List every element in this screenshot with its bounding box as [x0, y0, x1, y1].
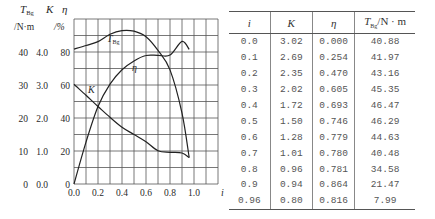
- y-tick-label: 0: [23, 180, 28, 190]
- table-cell: 0.1: [229, 50, 270, 66]
- table-row: 0.61.280.77944.63: [229, 129, 415, 145]
- table-cell: 40.48: [355, 145, 415, 161]
- y-axis-ticks: 00.00101.020202.040303.060404.080: [19, 48, 71, 190]
- table-cell: 0.4: [229, 98, 270, 114]
- x-tick-label: 1.0: [188, 188, 200, 198]
- col-header-i: i: [229, 12, 270, 34]
- y-tick-label: 40: [61, 114, 71, 124]
- table-cell: 0.5: [229, 113, 270, 129]
- table-cell: 0.9: [229, 177, 270, 193]
- table-cell: 1.50: [270, 113, 312, 129]
- y-tick-label: 10: [19, 147, 29, 157]
- y-tick-label: 30: [19, 81, 29, 91]
- table-cell: 0.605: [313, 82, 355, 98]
- table-cell: 34.58: [355, 161, 415, 177]
- col-header-t: TBg/N · m: [355, 12, 415, 34]
- x-axis-ticks: 0.00.20.40.60.81.0: [68, 188, 200, 198]
- col-header-k: K: [270, 12, 312, 34]
- x-tick-label: 0.4: [116, 188, 128, 198]
- axis-header-eta: η: [62, 3, 67, 15]
- y-tick-label: 4.0: [36, 48, 48, 58]
- table-cell: 1.72: [270, 98, 312, 114]
- table-cell: 1.01: [270, 145, 312, 161]
- table-cell: 0.6: [229, 129, 270, 145]
- table-row: 0.12.690.25441.97: [229, 50, 415, 66]
- table-row: 0.71.010.78040.48: [229, 145, 415, 161]
- table-cell: 3.02: [270, 34, 312, 50]
- table-cell: 45.35: [355, 82, 415, 98]
- y-tick-label: 80: [61, 48, 71, 58]
- y-tick-label: 0.0: [36, 180, 48, 190]
- table-cell: 0.864: [313, 177, 355, 193]
- y-tick-label: 60: [61, 81, 71, 91]
- table-cell: 40.88: [355, 34, 415, 50]
- axis-unit-eta: /%: [53, 22, 65, 32]
- table-cell: 44.63: [355, 129, 415, 145]
- axis-unit-t: /N·m: [14, 22, 35, 32]
- table-row: 0.32.020.60545.35: [229, 82, 415, 98]
- table-cell: 0.816: [313, 193, 355, 209]
- y-tick-label: 20: [19, 114, 29, 124]
- table-cell: 0.0: [229, 34, 270, 50]
- table-cell: 0.3: [229, 82, 270, 98]
- y-tick-label: 1.0: [36, 147, 48, 157]
- y-tick-label: 40: [19, 48, 29, 58]
- table-cell: 0.746: [313, 113, 355, 129]
- table-cell: 0.470: [313, 66, 355, 82]
- table-row: 0.960.800.8167.99: [229, 193, 415, 209]
- table-cell: 2.35: [270, 66, 312, 82]
- table-cell: 43.16: [355, 66, 415, 82]
- y-tick-label: 3.0: [36, 81, 48, 91]
- table-cell: 1.28: [270, 129, 312, 145]
- table-header-row: i K η TBg/N · m: [229, 12, 415, 34]
- table-cell: 0.781: [313, 161, 355, 177]
- y-tick-label: 2.0: [36, 114, 48, 124]
- table-row: 0.41.720.69346.47: [229, 98, 415, 114]
- table-cell: 0.96: [270, 161, 312, 177]
- table-cell: 0.780: [313, 145, 355, 161]
- table-row: 0.90.940.86421.47: [229, 177, 415, 193]
- table-row: 0.03.020.00040.88: [229, 34, 415, 50]
- x-axis-label: i: [221, 187, 224, 198]
- col-header-eta: η: [313, 12, 355, 34]
- table-cell: 0.96: [229, 193, 270, 209]
- axis-header-k: K: [45, 3, 54, 15]
- x-tick-label: 0.6: [140, 188, 152, 198]
- axis-header-t: TBg: [20, 3, 34, 16]
- x-tick-label: 0.8: [164, 188, 176, 198]
- table-cell: 2.69: [270, 50, 312, 66]
- curve-label-eta: η: [132, 62, 137, 73]
- k-curve: [74, 84, 189, 157]
- table-cell: 0.7: [229, 145, 270, 161]
- x-tick-label: 0.0: [68, 188, 80, 198]
- table-row: 0.22.350.47043.16: [229, 66, 415, 82]
- y-tick-label: 20: [61, 147, 71, 157]
- table-cell: 2.02: [270, 82, 312, 98]
- table-cell: 0.000: [313, 34, 355, 50]
- table-cell: 7.99: [355, 193, 415, 209]
- table-cell: 0.94: [270, 177, 312, 193]
- x-tick-label: 0.2: [92, 188, 104, 198]
- table-cell: 0.254: [313, 50, 355, 66]
- chart-curves: [74, 30, 189, 184]
- table-cell: 0.779: [313, 129, 355, 145]
- table-cell: 0.693: [313, 98, 355, 114]
- table-cell: 21.47: [355, 177, 415, 193]
- table-row: 0.51.500.74646.29: [229, 113, 415, 129]
- curve-label-k: K: [87, 84, 96, 95]
- data-table: i K η TBg/N · m 0.03.020.00040.880.12.69…: [229, 11, 415, 210]
- chart-grid: [74, 19, 218, 184]
- table-cell: 46.47: [355, 98, 415, 114]
- performance-chart: 00.00101.020202.040303.060404.080 0.00.2…: [0, 0, 228, 219]
- curve-label-t: TBg: [107, 33, 120, 45]
- table-cell: 0.8: [229, 161, 270, 177]
- table-cell: 0.80: [270, 193, 312, 209]
- table-row: 0.80.960.78134.58: [229, 161, 415, 177]
- table-cell: 46.29: [355, 113, 415, 129]
- table-cell: 41.97: [355, 50, 415, 66]
- table-cell: 0.2: [229, 66, 270, 82]
